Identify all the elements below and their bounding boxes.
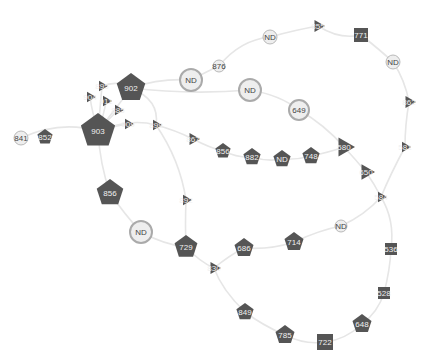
node-label: 841 bbox=[14, 134, 28, 143]
graph-node-pentagon[interactable]: 714 bbox=[285, 232, 304, 250]
node-label: 885 bbox=[111, 106, 125, 115]
graph-edge bbox=[156, 125, 186, 200]
graph-edge bbox=[405, 102, 409, 147]
node-label: 581 bbox=[398, 143, 412, 152]
graph-edge bbox=[214, 268, 245, 312]
node-label: 902 bbox=[124, 84, 138, 93]
graph-node-triangle[interactable]: 580 bbox=[337, 138, 355, 157]
node-label: 862 bbox=[402, 98, 416, 107]
node-label: 911 bbox=[100, 97, 113, 106]
network-graph: 841852903902895904911885909899ND876NDND6… bbox=[0, 0, 433, 358]
graph-node-pentagon[interactable]: 882 bbox=[243, 148, 260, 164]
node-label: 650 bbox=[359, 168, 373, 177]
node-label: ND bbox=[264, 33, 276, 42]
node-label: 882 bbox=[245, 153, 259, 162]
graph-node-pentagon[interactable]: 729 bbox=[175, 235, 198, 257]
node-label: 849 bbox=[238, 308, 252, 317]
node-label: 648 bbox=[355, 320, 369, 329]
edge-layer bbox=[21, 26, 409, 343]
graph-node-circle-plain[interactable]: 876 bbox=[212, 60, 226, 72]
graph-node-triangle[interactable]: 830 bbox=[207, 262, 221, 274]
node-label: ND bbox=[185, 76, 197, 85]
graph-node-circle-plain[interactable]: ND bbox=[386, 55, 400, 69]
graph-node-pentagon[interactable]: 785 bbox=[276, 325, 295, 343]
graph-node-pentagon[interactable]: 686 bbox=[235, 238, 254, 256]
node-label: 903 bbox=[91, 127, 105, 136]
node-label: 892 bbox=[179, 196, 193, 205]
graph-node-triangle[interactable]: 899 bbox=[149, 120, 163, 130]
node-label: 856 bbox=[216, 147, 230, 156]
node-layer: 841852903902895904911885909899ND876NDND6… bbox=[14, 20, 416, 350]
node-label: 785 bbox=[278, 331, 292, 340]
node-label: 714 bbox=[287, 238, 301, 247]
node-label: 909 bbox=[121, 120, 135, 129]
graph-edge bbox=[381, 197, 392, 249]
graph-node-circle-plain[interactable]: ND bbox=[335, 220, 347, 232]
node-label: 852 bbox=[38, 133, 52, 142]
node-label: 830 bbox=[207, 264, 221, 273]
graph-node-pentagon[interactable]: 856 bbox=[97, 179, 124, 204]
node-label: ND bbox=[387, 58, 399, 67]
graph-node-triangle[interactable]: 892 bbox=[179, 195, 193, 205]
graph-node-triangle[interactable]: 867 bbox=[186, 133, 200, 145]
node-label: ND bbox=[276, 155, 288, 164]
node-label: 855 bbox=[311, 22, 325, 31]
node-label: 528 bbox=[377, 289, 391, 298]
graph-node-square[interactable]: 528 bbox=[377, 287, 391, 299]
graph-node-triangle[interactable]: 862 bbox=[402, 96, 416, 108]
graph-node-circle-plain[interactable]: 841 bbox=[14, 131, 28, 145]
graph-node-pentagon[interactable]: 648 bbox=[353, 314, 372, 332]
node-label: 686 bbox=[237, 244, 251, 253]
graph-node-square[interactable]: 722 bbox=[317, 334, 333, 350]
graph-edge bbox=[381, 147, 405, 197]
graph-node-square[interactable]: 536 bbox=[384, 243, 398, 255]
graph-node-pentagon[interactable]: 856 bbox=[215, 143, 230, 158]
graph-edge bbox=[219, 37, 270, 66]
graph-node-triangle[interactable]: 855 bbox=[311, 20, 325, 32]
graph-node-triangle[interactable]: 885 bbox=[111, 105, 125, 115]
node-label: ND bbox=[135, 228, 147, 237]
node-label: ND bbox=[335, 222, 347, 231]
graph-node-triangle[interactable]: 909 bbox=[121, 119, 135, 129]
graph-node-circle-ring[interactable]: ND bbox=[180, 69, 202, 91]
node-label: 536 bbox=[384, 245, 398, 254]
node-label: 899 bbox=[149, 121, 163, 130]
graph-edge bbox=[384, 249, 391, 293]
graph-node-triangle[interactable]: 895 bbox=[95, 81, 109, 91]
graph-node-triangle[interactable]: 581 bbox=[398, 142, 412, 152]
graph-node-triangle[interactable]: 584 bbox=[374, 192, 388, 202]
node-label: 771 bbox=[354, 31, 368, 40]
node-label: 584 bbox=[374, 193, 388, 202]
graph-node-pentagon[interactable]: 748 bbox=[302, 147, 319, 163]
node-label: 895 bbox=[95, 82, 109, 91]
node-label: 867 bbox=[186, 135, 200, 144]
node-label: ND bbox=[244, 86, 256, 95]
graph-node-circle-plain[interactable]: ND bbox=[263, 30, 277, 44]
node-label: 580 bbox=[337, 143, 351, 152]
node-label: 722 bbox=[318, 338, 332, 347]
graph-node-circle-ring[interactable]: ND bbox=[239, 79, 261, 101]
node-label: 748 bbox=[304, 152, 318, 161]
graph-node-pentagon[interactable]: ND bbox=[273, 150, 290, 166]
node-label: 729 bbox=[179, 243, 193, 252]
graph-node-circle-ring[interactable]: ND bbox=[130, 221, 152, 243]
graph-node-circle-ring[interactable]: 649 bbox=[289, 100, 309, 120]
graph-node-square[interactable]: 771 bbox=[354, 28, 368, 42]
node-label: 876 bbox=[212, 62, 226, 71]
graph-node-pentagon[interactable]: 902 bbox=[117, 73, 146, 100]
graph-node-triangle[interactable]: 650 bbox=[359, 164, 375, 180]
node-label: 904 bbox=[83, 93, 97, 102]
node-label: 649 bbox=[292, 106, 306, 115]
node-label: 856 bbox=[103, 189, 117, 198]
graph-node-triangle[interactable]: 904 bbox=[83, 92, 97, 102]
